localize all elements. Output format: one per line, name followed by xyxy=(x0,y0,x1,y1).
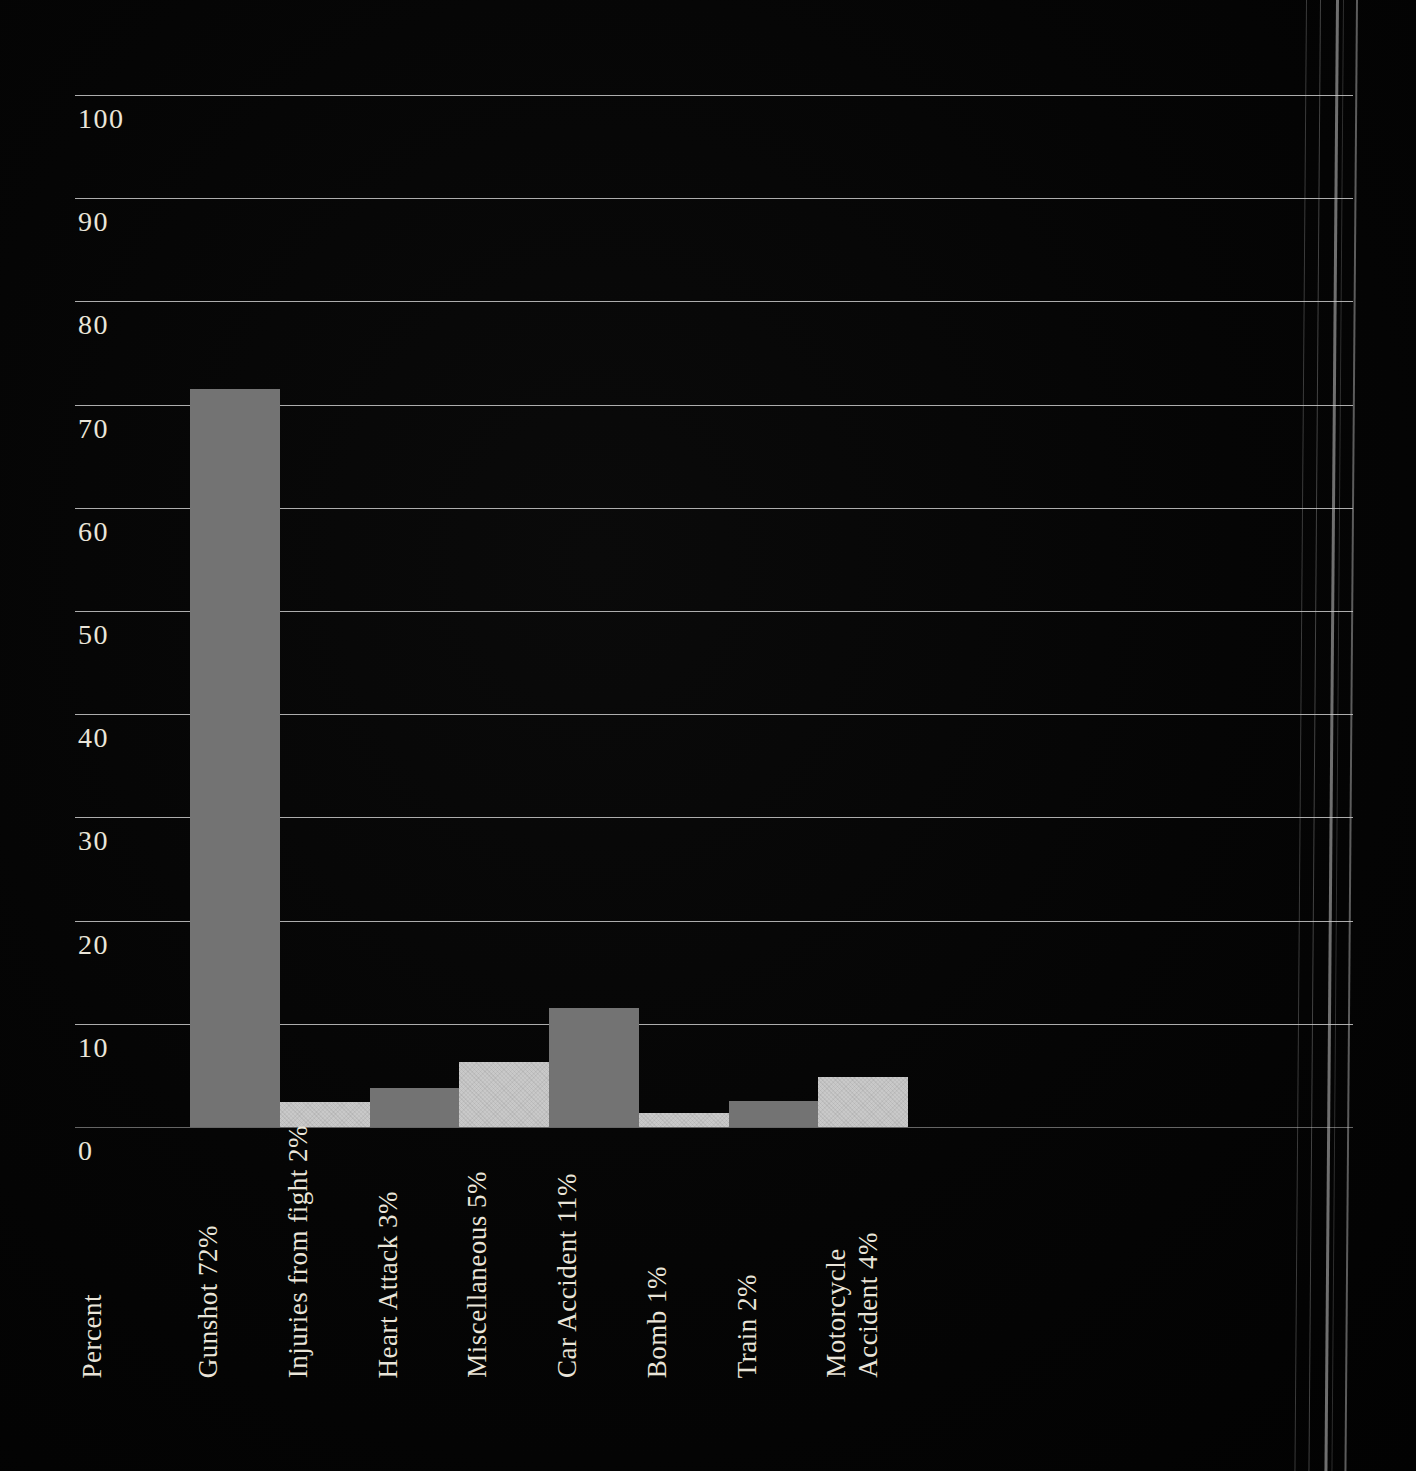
gridline-80 xyxy=(75,301,1353,302)
category-label-6: Bomb 1% xyxy=(641,1266,673,1378)
y-tick-label-90: 90 xyxy=(78,208,109,236)
y-tick-label-80: 80 xyxy=(78,311,109,339)
page-edge-line-4 xyxy=(1331,0,1344,1471)
page-edge-line-5 xyxy=(1344,0,1358,1471)
y-axis-title: Percent xyxy=(76,1294,108,1378)
category-label-8: MotorcycleAccident 4% xyxy=(820,1232,885,1378)
y-tick-label-50: 50 xyxy=(78,621,109,649)
page-edge-line-3 xyxy=(1324,0,1339,1471)
bar-injuries-from-fight xyxy=(280,1102,370,1127)
bar-motorcycle-accident xyxy=(818,1077,908,1127)
bar-heart-attack xyxy=(370,1088,460,1127)
gridline-90 xyxy=(75,198,1353,199)
bar-train xyxy=(729,1101,819,1127)
y-tick-label-20: 20 xyxy=(78,931,109,959)
category-label-1: Gunshot 72% xyxy=(192,1225,224,1378)
category-label-7: Train 2% xyxy=(731,1274,763,1378)
gridline-100 xyxy=(75,95,1353,96)
y-tick-label-70: 70 xyxy=(78,415,109,443)
y-tick-label-40: 40 xyxy=(78,724,109,752)
y-tick-label-100: 100 xyxy=(78,105,125,133)
bar-car-accident xyxy=(549,1008,639,1127)
bar-gunshot xyxy=(190,389,280,1127)
y-tick-label-60: 60 xyxy=(78,518,109,546)
page-edge-line-1 xyxy=(1294,0,1307,1471)
bar-miscellaneous xyxy=(459,1062,549,1127)
gridline-0 xyxy=(75,1127,1353,1128)
category-label-5: Car Accident 11% xyxy=(551,1173,583,1378)
bar-bomb xyxy=(639,1113,729,1127)
book-page-photo: 0102030405060708090100 Gunshot 72%Injuri… xyxy=(0,0,1416,1471)
category-label-2: Injuries from fight 2% xyxy=(282,1125,314,1378)
category-label-4: Miscellaneous 5% xyxy=(461,1171,493,1378)
y-tick-label-10: 10 xyxy=(78,1034,109,1062)
y-tick-label-0: 0 xyxy=(78,1137,94,1165)
category-label-3: Heart Attack 3% xyxy=(372,1191,404,1378)
y-tick-label-30: 30 xyxy=(78,827,109,855)
page-edge-line-2 xyxy=(1308,0,1321,1471)
